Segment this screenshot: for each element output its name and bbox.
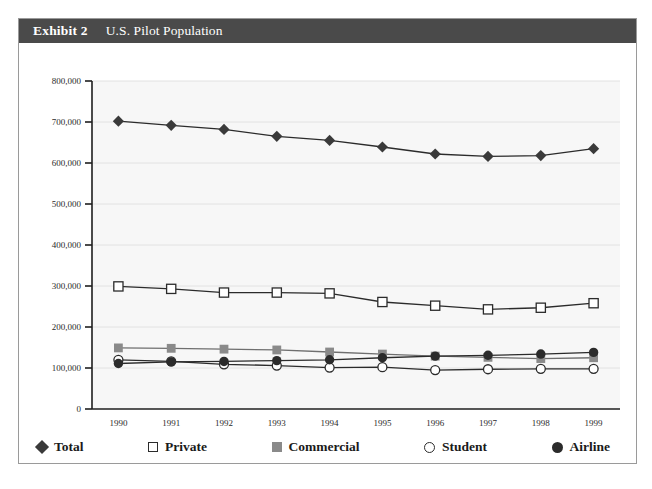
data-point bbox=[378, 297, 387, 306]
filled-square-icon bbox=[272, 442, 282, 452]
legend-label-commercial: Commercial bbox=[289, 439, 360, 455]
data-point bbox=[536, 364, 545, 373]
open-circle-icon bbox=[424, 442, 435, 453]
open-square-icon bbox=[148, 442, 158, 452]
y-axis-tick-label: 400,000 bbox=[52, 240, 82, 250]
data-point bbox=[219, 357, 228, 366]
data-point bbox=[483, 305, 492, 314]
exhibit-frame: Exhibit 2 U.S. Pilot Population 800,0007… bbox=[18, 18, 637, 464]
x-axis-tick-label: 1990 bbox=[109, 418, 128, 428]
data-point bbox=[272, 346, 281, 355]
legend-item-commercial: Commercial bbox=[272, 439, 360, 455]
data-point bbox=[167, 284, 176, 293]
data-point bbox=[589, 364, 598, 373]
chart-plot-area: 800,000700,000600,000500,000400,000300,0… bbox=[19, 43, 638, 464]
y-axis-tick-label: 100,000 bbox=[52, 363, 82, 373]
x-axis-tick-label: 1996 bbox=[426, 418, 445, 428]
data-point bbox=[167, 357, 176, 366]
exhibit-number: Exhibit 2 bbox=[33, 23, 88, 39]
data-point bbox=[378, 363, 387, 372]
y-axis-tick-label: 0 bbox=[77, 404, 82, 414]
filled-circle-icon bbox=[552, 442, 563, 453]
data-point bbox=[589, 299, 598, 308]
y-axis-tick-label: 600,000 bbox=[52, 158, 82, 168]
x-axis-tick-label: 1998 bbox=[532, 418, 551, 428]
legend-label-private: Private bbox=[165, 439, 207, 455]
data-point bbox=[378, 353, 387, 362]
data-point bbox=[272, 356, 281, 365]
legend-item-airline: Airline bbox=[552, 439, 611, 455]
x-axis-tick-label: 1997 bbox=[479, 418, 498, 428]
filled-diamond-icon bbox=[35, 440, 49, 454]
data-point bbox=[325, 289, 334, 298]
chart-legend: Total Private Commercial Student Airline bbox=[19, 439, 638, 455]
legend-label-airline: Airline bbox=[570, 439, 611, 455]
data-point bbox=[325, 355, 334, 364]
data-point bbox=[483, 351, 492, 360]
data-point bbox=[114, 282, 123, 291]
y-axis-tick-label: 200,000 bbox=[52, 322, 82, 332]
y-axis-tick-label: 300,000 bbox=[52, 281, 82, 291]
data-point bbox=[114, 344, 123, 353]
data-point bbox=[325, 348, 334, 357]
y-axis-tick-label: 500,000 bbox=[52, 199, 82, 209]
x-axis-tick-label: 1995 bbox=[373, 418, 392, 428]
data-point bbox=[431, 366, 440, 375]
x-axis-tick-label: 1994 bbox=[321, 418, 340, 428]
line-chart-svg: 800,000700,000600,000500,000400,000300,0… bbox=[19, 43, 638, 464]
data-point bbox=[220, 345, 229, 354]
data-point bbox=[114, 359, 123, 368]
exhibit-header: Exhibit 2 U.S. Pilot Population bbox=[19, 19, 636, 43]
x-axis-tick-label: 1993 bbox=[268, 418, 287, 428]
y-axis-tick-label: 700,000 bbox=[52, 117, 82, 127]
legend-item-private: Private bbox=[148, 439, 207, 455]
data-point bbox=[536, 303, 545, 312]
data-point bbox=[431, 351, 440, 360]
legend-label-total: Total bbox=[54, 439, 84, 455]
x-axis-tick-label: 1999 bbox=[585, 418, 604, 428]
data-point bbox=[167, 344, 176, 353]
legend-label-student: Student bbox=[442, 439, 487, 455]
y-axis-tick-label: 800,000 bbox=[52, 76, 82, 86]
x-axis-tick-label: 1991 bbox=[162, 418, 180, 428]
data-point bbox=[431, 301, 440, 310]
data-point bbox=[219, 288, 228, 297]
data-point bbox=[589, 348, 598, 357]
legend-item-total: Total bbox=[37, 439, 84, 455]
data-point bbox=[272, 288, 281, 297]
data-point bbox=[484, 365, 493, 374]
x-axis-tick-label: 1992 bbox=[215, 418, 233, 428]
legend-item-student: Student bbox=[424, 439, 487, 455]
data-point bbox=[536, 349, 545, 358]
exhibit-title: U.S. Pilot Population bbox=[106, 23, 223, 39]
